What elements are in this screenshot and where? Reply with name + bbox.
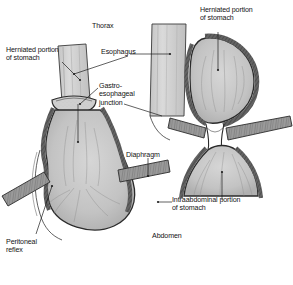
left-cutaway-view [2, 44, 170, 240]
figure-root: Thorax Abdomen Herniated portion of stom… [0, 0, 293, 285]
label-intraabdominal-portion: Intraabdominal portion of stomach [172, 196, 240, 213]
label-thorax: Thorax [92, 22, 113, 30]
label-ge-junction: Gastro- esophageal junction [99, 82, 135, 107]
caption-strip [0, 269, 293, 285]
label-peritoneal-reflex: Peritoneal reflex [6, 238, 37, 255]
label-diaphragm: Diaphragm [126, 151, 160, 159]
label-herniated-portion-left: Herniated portion of stomach [6, 46, 59, 63]
label-herniated-portion-right: Herniated portion of stomach [200, 6, 253, 23]
label-esophagus: Esophagus [101, 48, 136, 56]
right-herniated-pouch [187, 36, 257, 125]
label-abdomen: Abdomen [152, 232, 182, 240]
anatomy-illustration [0, 0, 293, 285]
